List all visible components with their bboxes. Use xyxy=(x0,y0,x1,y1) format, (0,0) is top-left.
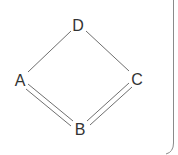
node-label-D: D xyxy=(72,17,84,34)
node-A: A xyxy=(11,71,29,89)
node-label-B: B xyxy=(75,121,86,138)
edge-D-C xyxy=(86,31,129,71)
graph-diagram: D A C B xyxy=(0,0,178,155)
frame-border xyxy=(166,0,174,154)
edge-D-A xyxy=(28,31,71,72)
node-label-C: C xyxy=(131,71,143,88)
node-label-A: A xyxy=(15,72,26,89)
node-D: D xyxy=(69,16,87,34)
node-C: C xyxy=(128,70,146,88)
edge-B-C-double xyxy=(87,83,132,125)
node-B: B xyxy=(71,120,89,138)
edge-A-B-double xyxy=(26,84,73,126)
edges xyxy=(26,31,132,126)
